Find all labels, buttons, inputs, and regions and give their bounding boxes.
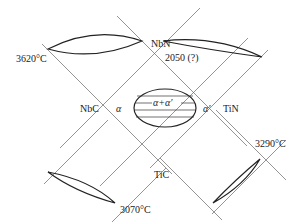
label-alpha: α (116, 104, 121, 114)
lens-3290 (213, 159, 260, 203)
label-tin: TiN (223, 104, 239, 114)
label-nbc: NbC (80, 104, 99, 114)
label-alpha-plus-alpha-prime: α+α′ (152, 98, 173, 108)
label-3070: 3070°C (120, 205, 151, 215)
line-3290-outer (212, 140, 286, 214)
line-nbc-lower-left (44, 120, 108, 184)
label-3290: 3290°C (255, 139, 286, 149)
phase-diagram: NbN 2050 (?) 3620°C NbC TiN α α′ α+α′ 32… (0, 0, 307, 224)
label-3620: 3620°C (16, 54, 47, 64)
label-alpha-prime: α′ (203, 104, 210, 114)
diagram-lines (0, 0, 307, 224)
lens-3620 (48, 35, 142, 54)
line-nbn-tin (117, 16, 247, 146)
label-tic: TiC (154, 170, 169, 180)
label-2050: 2050 (?) (165, 53, 199, 63)
lens-3070 (48, 172, 115, 203)
line-nbc-nbn-outer (42, 44, 172, 174)
line-tic-lower-right (160, 158, 222, 220)
label-nbn: NbN (151, 39, 170, 49)
